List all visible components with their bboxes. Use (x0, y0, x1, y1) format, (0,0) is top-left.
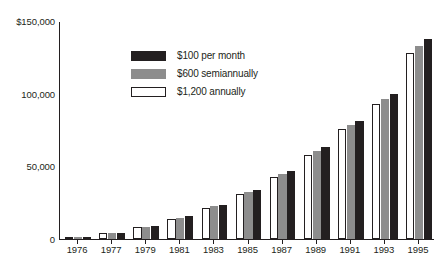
bar (74, 237, 82, 239)
x-tick-mark (384, 240, 385, 244)
legend-label: $600 semiannually (177, 68, 258, 79)
legend-item: $100 per month (131, 48, 281, 63)
y-tick-label: 50,000 (0, 161, 55, 172)
y-tick-label: 0 (0, 234, 55, 245)
bar (372, 104, 380, 239)
bar (253, 190, 261, 239)
bar (415, 46, 423, 239)
legend-swatch-icon (131, 87, 166, 97)
bar-group (372, 22, 398, 239)
x-tick-label: 1989 (305, 244, 326, 255)
bar (287, 171, 295, 239)
legend-item: $1,200 annually (131, 84, 281, 99)
x-tick-label: 1995 (408, 244, 429, 255)
bar (151, 226, 159, 239)
legend-label: $1,200 annually (177, 86, 245, 97)
legend-label: $100 per month (177, 50, 245, 61)
x-tick-label: 1987 (271, 244, 292, 255)
bar (133, 227, 141, 239)
x-tick-label: 1983 (203, 244, 224, 255)
x-tick-mark (282, 240, 283, 244)
y-axis: $150,000100,00050,0000 (0, 0, 55, 279)
legend-swatch-icon (131, 51, 166, 61)
x-axis: 1976197719791981198319851987198919911993… (59, 244, 434, 264)
legend-item: $600 semiannually (131, 66, 281, 81)
bar (278, 174, 286, 239)
bar (244, 192, 252, 239)
bar-group (99, 22, 125, 239)
bar (313, 151, 321, 239)
legend-swatch-icon (131, 69, 166, 79)
bar (108, 233, 116, 239)
x-tick-label: 1979 (135, 244, 156, 255)
investment-growth-bar-chart: $150,000100,00050,0000 $100 per month$60… (0, 0, 439, 279)
bar (167, 219, 175, 239)
bar (185, 216, 193, 239)
bar (304, 155, 312, 239)
plot-area: $100 per month$600 semiannually$1,200 an… (59, 22, 434, 240)
x-tick-label: 1985 (237, 244, 258, 255)
x-tick-label: 1977 (101, 244, 122, 255)
bar (176, 218, 184, 240)
bar (142, 227, 150, 239)
bar (390, 94, 398, 239)
x-tick-mark (248, 240, 249, 244)
x-tick-mark (77, 240, 78, 244)
x-tick-mark (145, 240, 146, 244)
bar (219, 205, 227, 239)
bar (117, 233, 125, 239)
bar (381, 99, 389, 239)
bar-group (338, 22, 364, 239)
bar-group (304, 22, 330, 239)
x-tick-label: 1981 (169, 244, 190, 255)
bar (202, 208, 210, 239)
x-tick-label: 1993 (373, 244, 394, 255)
y-tick-label: $150,000 (0, 16, 55, 27)
bar (99, 233, 107, 239)
bar-group (65, 22, 91, 239)
bar (347, 125, 355, 239)
x-tick-label: 1976 (67, 244, 88, 255)
x-tick-mark (418, 240, 419, 244)
bar (355, 121, 363, 239)
x-tick-mark (316, 240, 317, 244)
bar (424, 39, 432, 239)
bar (236, 194, 244, 239)
chart-legend: $100 per month$600 semiannually$1,200 an… (131, 48, 281, 102)
bar-group (406, 22, 432, 239)
bar (210, 206, 218, 239)
x-tick-mark (111, 240, 112, 244)
bar (270, 177, 278, 239)
bar (65, 237, 73, 239)
x-tick-mark (350, 240, 351, 244)
x-tick-label: 1991 (339, 244, 360, 255)
bar (321, 147, 329, 239)
x-tick-mark (213, 240, 214, 244)
bar (406, 53, 414, 239)
bar (338, 129, 346, 239)
bar (83, 237, 91, 239)
x-tick-mark (179, 240, 180, 244)
y-tick-label: 100,000 (0, 89, 55, 100)
